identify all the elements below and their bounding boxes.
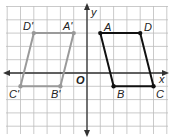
vertex-point [111,84,115,88]
vertex-point [138,31,142,35]
label-a-prime: A' [62,20,73,32]
y-axis [84,3,90,137]
label-origin: O [76,74,85,86]
y-axis-down-arrow-icon [84,130,90,137]
label-d-prime: D' [23,20,34,32]
label-c: C [156,88,164,100]
x-axis-left-arrow-icon [3,70,10,76]
label-b-prime: B' [51,88,61,100]
x-axis [3,70,169,76]
label-x-axis: x [158,73,165,85]
vertex-point [98,31,102,35]
label-c-prime: C' [9,88,20,100]
label-d: D [144,21,152,33]
label-a: A [103,21,111,33]
label-b: B [117,88,124,100]
label-y-axis: y [90,6,98,18]
coordinate-plane: D' A' C' B' A D B C x y O [0,0,175,139]
